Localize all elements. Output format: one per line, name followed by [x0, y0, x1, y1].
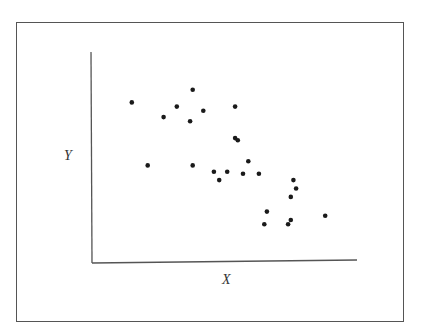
- x-axis: [92, 260, 357, 263]
- data-point: [225, 169, 230, 174]
- data-point: [190, 163, 195, 168]
- data-point: [289, 195, 294, 200]
- data-point: [291, 178, 296, 183]
- data-point: [236, 138, 241, 143]
- data-point: [130, 100, 135, 105]
- data-point: [289, 218, 294, 223]
- data-point: [233, 104, 238, 109]
- data-point: [246, 159, 251, 164]
- data-point: [262, 222, 267, 227]
- data-point: [257, 172, 262, 177]
- data-points: [130, 88, 328, 227]
- data-point: [241, 172, 246, 177]
- data-point: [188, 119, 193, 124]
- data-point: [201, 109, 206, 114]
- data-point: [161, 115, 166, 120]
- data-point: [294, 186, 299, 191]
- data-point: [190, 88, 195, 93]
- x-axis-label: X: [222, 272, 231, 288]
- y-axis: [91, 52, 92, 263]
- data-point: [286, 222, 291, 227]
- data-point: [212, 169, 217, 174]
- scatter-plot: [0, 0, 423, 333]
- data-point: [265, 209, 270, 214]
- data-point: [145, 163, 150, 168]
- data-point: [323, 214, 328, 219]
- data-point: [217, 178, 222, 183]
- data-point: [175, 104, 180, 109]
- y-axis-label: Y: [64, 148, 72, 164]
